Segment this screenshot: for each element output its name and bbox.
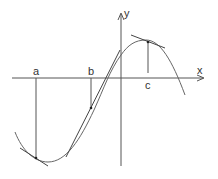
tangent-a (20, 148, 48, 166)
point-c (147, 41, 150, 44)
label-c: c (145, 80, 151, 91)
point-b (90, 107, 93, 110)
label-a: a (33, 66, 39, 77)
y-axis-label: y (124, 8, 130, 19)
function-diagram: a b c x y (0, 0, 218, 179)
diagram-svg (0, 0, 218, 179)
label-b: b (88, 66, 94, 77)
function-curve (15, 40, 185, 162)
point-a (35, 157, 38, 160)
x-axis-label: x (197, 65, 203, 76)
